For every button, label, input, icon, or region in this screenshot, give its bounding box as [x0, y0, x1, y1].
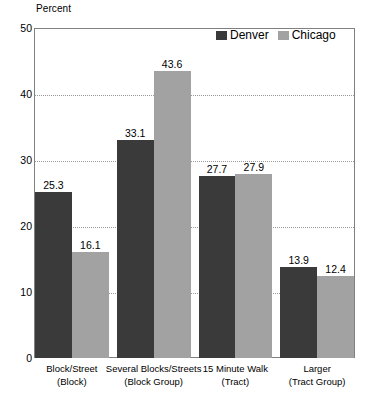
- bar-value-label: 16.1: [80, 240, 100, 251]
- bar-chicago[interactable]: 43.6: [154, 71, 191, 358]
- bar-value-label: 43.6: [162, 59, 182, 70]
- legend-swatch-chicago-icon: [278, 31, 289, 40]
- x-category-label-line2: (Tract Group): [268, 375, 366, 388]
- y-tick-40: 40: [6, 89, 32, 99]
- bar-denver[interactable]: 13.9: [280, 267, 317, 358]
- y-axis-title: Percent: [36, 3, 71, 15]
- legend-label-chicago: Chicago: [292, 29, 336, 41]
- bar-chicago[interactable]: 16.1: [72, 252, 109, 358]
- bar-denver[interactable]: 33.1: [117, 140, 154, 358]
- bar-value-label: 12.4: [325, 264, 345, 275]
- bar-value-label: 13.9: [288, 255, 308, 266]
- y-tick-50: 50: [6, 23, 32, 33]
- legend-entry-denver[interactable]: Denver: [216, 29, 269, 41]
- x-axis-category-labels: Block/Street(Block)Several Blocks/Street…: [35, 362, 354, 402]
- bar-group: 25.316.1: [35, 29, 109, 358]
- bar-value-label: 25.3: [43, 180, 63, 191]
- y-tick-30: 30: [6, 155, 32, 165]
- bar-value-label: 27.7: [207, 164, 227, 175]
- bar-chicago[interactable]: 27.9: [235, 174, 272, 358]
- bar-denver[interactable]: 27.7: [199, 176, 236, 358]
- y-tick-20: 20: [6, 221, 32, 231]
- bar-group: 13.912.4: [280, 29, 354, 358]
- x-category-label-line1: Larger: [268, 362, 366, 375]
- bar-chart: Percent 01020304050 25.316.133.143.627.7…: [0, 0, 369, 405]
- x-category-label: Larger(Tract Group): [268, 362, 366, 388]
- bar-group: 33.143.6: [117, 29, 191, 358]
- legend-swatch-denver-icon: [216, 31, 227, 40]
- legend-entry-chicago[interactable]: Chicago: [278, 29, 336, 41]
- bar-groups: 25.316.133.143.627.727.913.912.4: [35, 29, 354, 358]
- bar-value-label: 33.1: [125, 128, 145, 139]
- bar-denver[interactable]: 25.3: [35, 192, 72, 358]
- y-tick-10: 10: [6, 287, 32, 297]
- legend: Denver Chicago: [216, 29, 336, 41]
- bar-group: 27.727.9: [199, 29, 273, 358]
- legend-label-denver: Denver: [230, 29, 269, 41]
- bar-value-label: 27.9: [244, 162, 264, 173]
- bar-chicago[interactable]: 12.4: [317, 276, 354, 358]
